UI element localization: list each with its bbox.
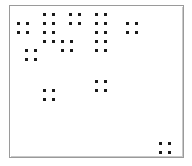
scatter-point (52, 31, 55, 34)
scatter-point (43, 31, 46, 34)
scatter-point (95, 80, 98, 83)
scatter-point (69, 22, 72, 25)
scatter-point (52, 98, 55, 101)
scatter-point (34, 58, 37, 61)
scatter-point (104, 40, 107, 43)
scatter-point (17, 31, 20, 34)
scatter-point (95, 49, 98, 52)
scatter-point (104, 80, 107, 83)
scatter-point (104, 31, 107, 34)
scatter-point (43, 22, 46, 25)
scatter-point (159, 151, 162, 154)
scatter-point-layer (0, 0, 192, 166)
scatter-point (159, 142, 162, 145)
scatter-point (78, 22, 81, 25)
scatter-point (52, 13, 55, 16)
scatter-point (104, 22, 107, 25)
scatter-point (25, 49, 28, 52)
scatter-point (43, 13, 46, 16)
scatter-point (26, 31, 29, 34)
scatter-point (43, 98, 46, 101)
scatter-point (95, 31, 98, 34)
scatter-point (168, 142, 171, 145)
scatter-point (34, 49, 37, 52)
scatter-point (52, 40, 55, 43)
scatter-point (95, 40, 98, 43)
scatter-point (104, 13, 107, 16)
scatter-point (43, 89, 46, 92)
scatter-point (52, 22, 55, 25)
scatter-point (52, 89, 55, 92)
scatter-point (126, 22, 129, 25)
scatter-point (135, 31, 138, 34)
scatter-point (70, 40, 73, 43)
scatter-point (69, 13, 72, 16)
scatter-point (95, 22, 98, 25)
scatter-point (168, 151, 171, 154)
scatter-point (95, 89, 98, 92)
scatter-point (17, 22, 20, 25)
scatter-point (104, 89, 107, 92)
scatter-point (70, 49, 73, 52)
scatter-point (43, 40, 46, 43)
scatter-point (61, 49, 64, 52)
scatter-plot-canvas (0, 0, 192, 166)
scatter-point (126, 31, 129, 34)
scatter-point (26, 22, 29, 25)
scatter-point (61, 40, 64, 43)
scatter-point (78, 13, 81, 16)
scatter-point (104, 49, 107, 52)
scatter-point (95, 13, 98, 16)
scatter-point (25, 58, 28, 61)
scatter-point (135, 22, 138, 25)
